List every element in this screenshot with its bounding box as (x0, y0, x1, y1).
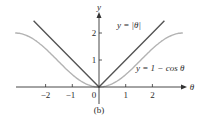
caption: (b) (94, 105, 105, 115)
tick-x-0: 0 (92, 90, 97, 100)
chart-svg: −2 −1 0 1 2 1 2 y θ y = |θ| y = 1 − cos … (0, 0, 207, 127)
tick-x-neg2: −2 (41, 90, 51, 100)
chart: −2 −1 0 1 2 1 2 y θ y = |θ| y = 1 − cos … (0, 0, 207, 127)
tick-x-2: 2 (150, 90, 155, 100)
y-axis-label: y (96, 2, 101, 12)
tick-y-2: 2 (92, 28, 97, 38)
tick-x-neg1: −1 (66, 90, 76, 100)
y-axis-arrow-icon (97, 12, 102, 18)
tick-x-1: 1 (123, 90, 128, 100)
x-axis-arrow-icon (181, 85, 187, 90)
cos-annotation: y = 1 − cos θ (135, 63, 185, 73)
tick-y-1: 1 (92, 55, 97, 65)
x-axis-label: θ (190, 82, 195, 92)
abs-annotation: y = |θ| (116, 20, 141, 30)
